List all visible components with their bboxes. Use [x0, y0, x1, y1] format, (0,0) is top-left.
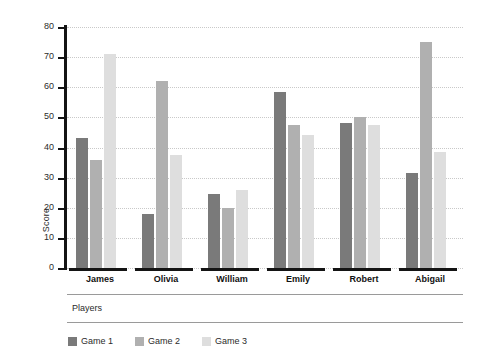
bar — [236, 190, 248, 268]
y-tick-mark — [58, 57, 65, 59]
bar — [340, 123, 352, 268]
x-axis-segment — [201, 268, 259, 271]
legend-item[interactable]: Game 2 — [135, 336, 180, 346]
y-tick-label: 60 — [12, 81, 54, 91]
legend-item[interactable]: Game 1 — [68, 336, 113, 346]
x-category-label: Abigail — [397, 274, 463, 284]
y-tick-label: 20 — [12, 202, 54, 212]
bar — [104, 54, 116, 268]
x-category-label: William — [199, 274, 265, 284]
bar-group — [406, 27, 446, 268]
y-tick-mark — [58, 208, 65, 210]
bar — [288, 125, 300, 268]
bar — [222, 208, 234, 268]
y-tick-mark — [58, 27, 65, 29]
y-tick-label: 10 — [12, 232, 54, 242]
legend-label: Game 1 — [81, 336, 113, 346]
x-axis-segment — [69, 268, 127, 271]
x-axis-segment — [399, 268, 457, 271]
bar — [156, 81, 168, 268]
bar — [434, 152, 446, 268]
x-axis-segment — [333, 268, 391, 271]
x-axis-segment — [135, 268, 193, 271]
x-category-label: Olivia — [133, 274, 199, 284]
legend-swatch — [135, 337, 144, 346]
bar — [420, 42, 432, 268]
bar-group — [142, 27, 182, 268]
players-band-top-rule — [67, 294, 463, 295]
bar-group — [208, 27, 248, 268]
x-axis-segment — [267, 268, 325, 271]
bar-group — [76, 27, 116, 268]
bar — [354, 117, 366, 268]
y-tick-mark — [58, 117, 65, 119]
legend-swatch — [202, 337, 211, 346]
y-tick-mark — [58, 87, 65, 89]
bar — [76, 138, 88, 268]
bar-group — [340, 27, 380, 268]
players-band-bottom-rule — [67, 322, 463, 323]
bar — [208, 194, 220, 268]
y-tick-mark — [58, 148, 65, 150]
y-tick-label: 30 — [12, 172, 54, 182]
bar — [142, 214, 154, 268]
y-tick-mark — [58, 178, 65, 180]
bar — [368, 125, 380, 268]
y-tick-label: 40 — [12, 142, 54, 152]
y-tick-label: 70 — [12, 51, 54, 61]
bar-chart-figure: Score 01020304050607080 JamesOliviaWilli… — [0, 0, 483, 364]
legend-item[interactable]: Game 3 — [202, 336, 247, 346]
legend-label: Game 2 — [148, 336, 180, 346]
x-category-label: Emily — [265, 274, 331, 284]
bar — [302, 135, 314, 268]
bar — [406, 173, 418, 268]
x-category-label: James — [67, 274, 133, 284]
bars-layer — [67, 27, 463, 268]
legend: Game 1Game 2Game 3 — [68, 336, 263, 346]
y-tick-label: 0 — [12, 262, 54, 272]
y-tick-label: 80 — [12, 21, 54, 31]
bar-group — [274, 27, 314, 268]
x-axis-label: Players — [72, 303, 102, 313]
legend-swatch — [68, 337, 77, 346]
y-tick-mark — [58, 238, 65, 240]
legend-label: Game 3 — [215, 336, 247, 346]
x-category-label: Robert — [331, 274, 397, 284]
y-tick-label: 50 — [12, 111, 54, 121]
y-tick-mark — [58, 268, 65, 270]
bar — [274, 92, 286, 268]
bar — [90, 160, 102, 268]
bar — [170, 155, 182, 268]
